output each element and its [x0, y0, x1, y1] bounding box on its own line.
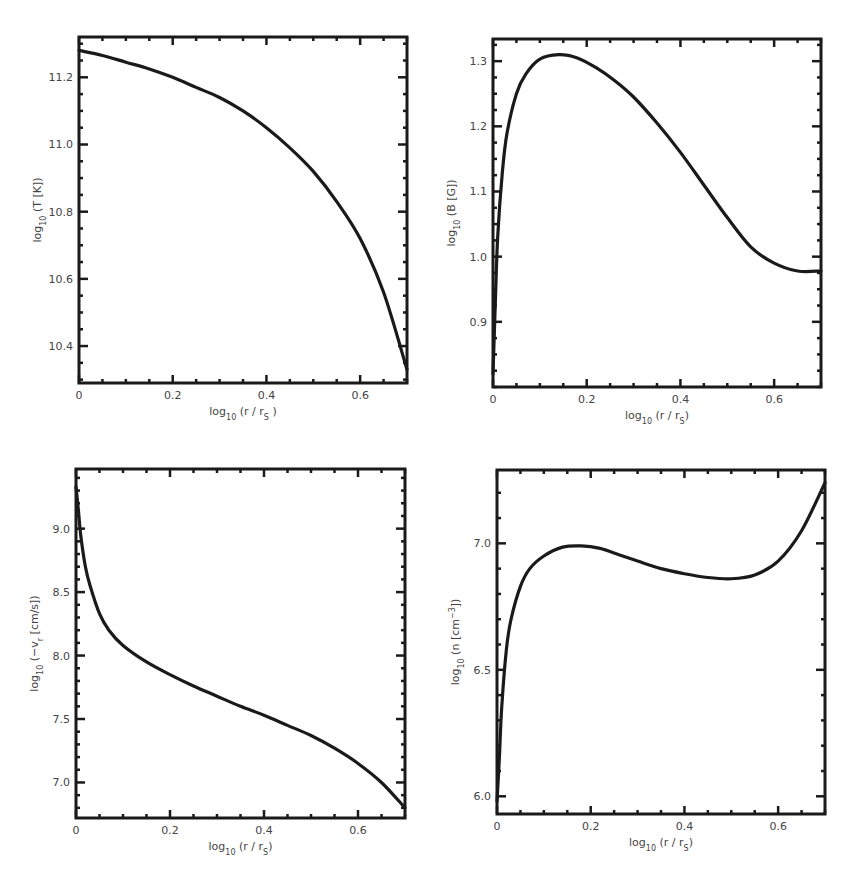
plot-frame: [493, 39, 821, 387]
figure: 00.20.40.610.410.610.811.011.2log10 (r /…: [0, 0, 858, 879]
x-tick-label: 0.2: [582, 820, 600, 833]
y-tick-label: 6.0: [474, 790, 492, 803]
y-tick-label: 10.6: [49, 273, 74, 286]
y-tick-label: 10.4: [49, 340, 74, 353]
x-tick-label: 0.6: [351, 389, 369, 402]
panel-magnetic-field: 00.20.40.60.91.01.11.21.3log10 (r / rS)l…: [445, 39, 821, 426]
x-tick-label: 0.4: [676, 820, 694, 833]
y-tick-label: 10.8: [49, 206, 74, 219]
x-axis-label: log10 (r / rS): [629, 836, 693, 853]
panel-number-density: 00.20.40.66.06.57.0log10 (r / rS)log10 (…: [448, 470, 826, 853]
y-tick-label: 8.0: [53, 650, 71, 663]
y-tick-label: 8.5: [53, 586, 71, 599]
x-tick-label: 0.2: [578, 393, 596, 406]
y-axis-label: log10 (n [cm−3]): [448, 599, 466, 686]
panel-radial-velocity: 00.20.40.67.07.58.08.59.0log10 (r / rS)l…: [28, 469, 405, 857]
plot-frame: [79, 37, 407, 383]
x-tick-label: 0: [490, 393, 497, 406]
y-axis-label: log10 (−vr [cm/s]): [28, 595, 45, 691]
data-curve-temperature: [79, 50, 407, 369]
y-tick-label: 7.5: [53, 713, 71, 726]
y-tick-label: 1.1: [470, 185, 488, 198]
x-tick-label: 0.6: [349, 824, 367, 837]
x-tick-label: 0.4: [255, 824, 273, 837]
y-tick-label: 7.0: [474, 537, 492, 550]
x-tick-label: 0.6: [765, 393, 783, 406]
x-axis-label: log10 (r / rS): [625, 409, 689, 426]
y-axis-label: log10 (T [K]): [31, 177, 48, 242]
x-tick-label: 0.2: [161, 824, 179, 837]
x-tick-label: 0.4: [258, 389, 276, 402]
x-tick-label: 0: [76, 389, 83, 402]
y-tick-label: 1.2: [470, 120, 488, 133]
y-tick-label: 11.2: [49, 71, 74, 84]
plot-frame: [76, 469, 405, 818]
data-curve-radial-velocity: [76, 487, 405, 808]
x-tick-label: 0.2: [164, 389, 182, 402]
y-axis-label: log10 (B [G]): [445, 179, 462, 246]
y-tick-label: 1.0: [470, 251, 488, 264]
x-axis-label: log10 (r / rS): [209, 840, 273, 857]
y-tick-label: 11.0: [49, 138, 74, 151]
y-tick-label: 9.0: [53, 523, 71, 536]
x-tick-label: 0: [73, 824, 80, 837]
y-tick-label: 6.5: [474, 664, 492, 677]
panel-temperature: 00.20.40.610.410.610.811.011.2log10 (r /…: [31, 37, 407, 422]
x-tick-label: 0: [494, 820, 501, 833]
y-tick-label: 0.9: [470, 316, 488, 329]
x-tick-label: 0.6: [769, 820, 787, 833]
x-tick-label: 0.4: [672, 393, 690, 406]
y-tick-label: 1.3: [470, 55, 488, 68]
y-tick-label: 7.0: [53, 776, 71, 789]
x-axis-label: log10 (r / rS ): [209, 405, 276, 422]
plot-frame: [497, 470, 825, 814]
data-curve-number-density: [497, 483, 825, 802]
data-curve-magnetic-field: [493, 55, 821, 374]
